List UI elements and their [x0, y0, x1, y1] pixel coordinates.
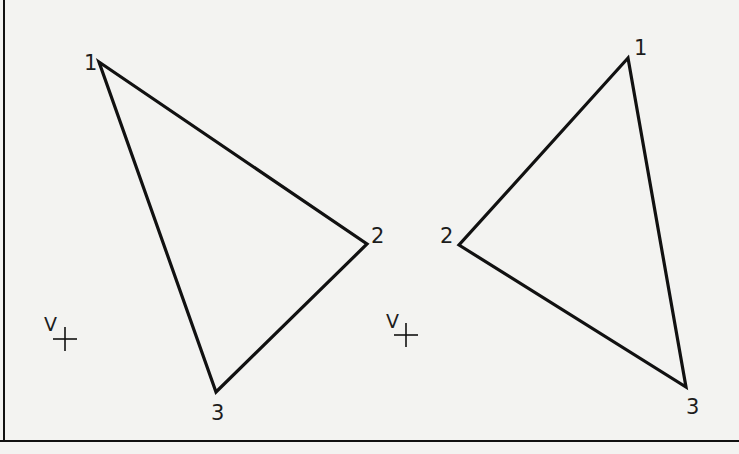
left-vertex-2-label: 2: [371, 224, 384, 248]
right-triangle: 1 2 3 V: [386, 36, 699, 419]
right-viewpoint-label: V: [386, 310, 399, 332]
right-vertex-2-label: 2: [440, 224, 453, 248]
left-viewpoint-label: V: [44, 313, 57, 335]
left-vertex-1-label: 1: [84, 51, 97, 75]
diagram-canvas: 1 2 3 V 1 2 3 V: [0, 0, 739, 454]
right-triangle-outline: [459, 58, 686, 387]
left-triangle: 1 2 3 V: [44, 51, 384, 425]
left-triangle-outline: [99, 62, 367, 392]
triangles-diagram: 1 2 3 V 1 2 3 V: [0, 0, 739, 454]
right-vertex-1-label: 1: [634, 36, 647, 60]
left-vertex-3-label: 3: [211, 401, 224, 425]
right-vertex-3-label: 3: [686, 395, 699, 419]
